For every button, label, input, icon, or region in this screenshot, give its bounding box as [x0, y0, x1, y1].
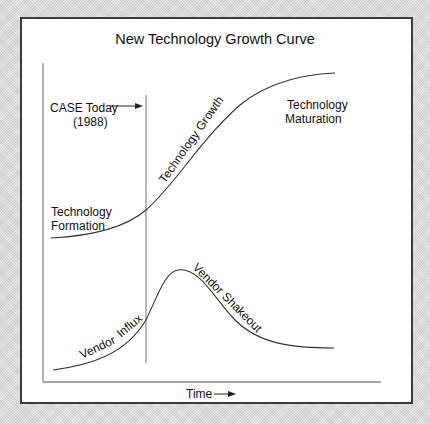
- formation-label-line2: Formation: [51, 219, 105, 233]
- influx-label: Influx: [114, 311, 145, 340]
- case-year-label: (1988): [73, 115, 108, 129]
- case-today-label: CASE Today: [50, 101, 118, 115]
- shakeout-label: Vendor Shakeout: [190, 260, 265, 335]
- maturation-label-line1: Technology: [287, 98, 348, 112]
- time-arrow-head-icon: [228, 391, 236, 397]
- growth-diagram: New Technology Growth Curve CASE Today (…: [0, 0, 430, 424]
- growth-label: Technology Growth: [156, 94, 226, 186]
- maturation-label-line2: Maturation: [285, 112, 342, 126]
- vendor-label: Vendor: [77, 333, 117, 362]
- diagram-title: New Technology Growth Curve: [115, 31, 315, 47]
- time-axis-label: Time: [186, 387, 213, 401]
- case-arrow-head-icon: [135, 103, 143, 109]
- formation-label-line1: Technology: [51, 205, 112, 219]
